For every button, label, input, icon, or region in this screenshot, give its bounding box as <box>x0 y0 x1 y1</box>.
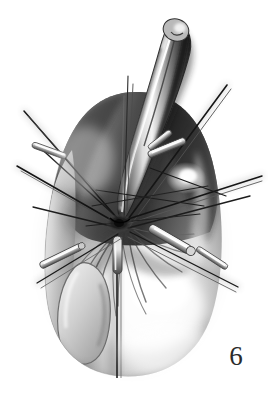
needle-center-vertical <box>113 236 122 274</box>
left-upper-lift <box>58 126 114 194</box>
figure-panel: 6 <box>0 0 268 396</box>
bottom-right-lift <box>120 324 216 376</box>
surgical-illustration <box>0 0 268 396</box>
figure-number: 6 <box>222 341 250 371</box>
mass-specular-core <box>179 169 197 183</box>
tube-tip-highlight <box>174 23 186 33</box>
mass-belly-core-highlight <box>130 270 190 314</box>
knot-zone-shadow <box>62 190 146 242</box>
